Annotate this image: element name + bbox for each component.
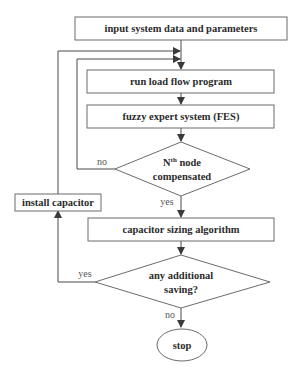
decision-saving-node: any additional saving?: [95, 255, 270, 308]
fes-label: fuzzy expert system (FES): [123, 111, 240, 123]
install-capacitor-node: install capacitor: [15, 194, 101, 211]
capacitor-sizing-label: capacitor sizing algorithm: [122, 224, 239, 235]
capacitor-sizing-node: capacitor sizing algorithm: [88, 218, 274, 241]
stop-node: stop: [157, 329, 207, 361]
edge-label-no-2: no: [165, 309, 175, 320]
load-flow-label: run load flow program: [130, 76, 232, 87]
decision-saving-label-line2: saving?: [164, 284, 198, 295]
input-label: input system data and parameters: [105, 23, 258, 34]
decision-saving-label-line1: any additional: [149, 270, 214, 281]
stop-label: stop: [173, 340, 192, 351]
flowchart: input system data and parameters run loa…: [0, 0, 298, 368]
edge-label-yes-2: yes: [78, 268, 91, 279]
edge-label-no-1: no: [97, 156, 107, 167]
input-node: input system data and parameters: [75, 17, 287, 40]
decision-nth-node: Nth node compensated: [115, 142, 250, 196]
decision-nth-label-line1: Nth node: [163, 156, 201, 168]
edge-label-yes-1: yes: [160, 196, 173, 207]
fes-node: fuzzy expert system (FES): [87, 105, 274, 128]
load-flow-node: run load flow program: [87, 70, 274, 93]
decision-nth-label-line2: compensated: [153, 171, 211, 182]
install-capacitor-label: install capacitor: [22, 197, 94, 208]
